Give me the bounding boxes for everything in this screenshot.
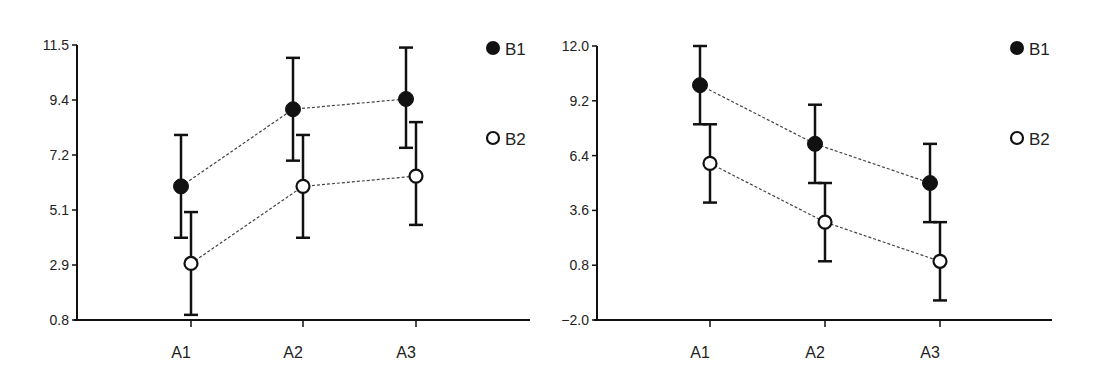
- legend-filled-circle-icon: [486, 41, 500, 55]
- y-tick-label: 12.0: [562, 38, 589, 54]
- filled-circle-marker: [286, 102, 301, 117]
- legend-open-circle-icon: [1011, 132, 1023, 144]
- open-circle-marker: [704, 157, 717, 170]
- x-tick-label: A3: [396, 344, 416, 361]
- open-circle-marker: [185, 257, 198, 270]
- y-tick-label: 6.4: [570, 148, 590, 164]
- y-tick-label: 7.2: [50, 147, 70, 163]
- left-chart: 11.59.47.25.12.90.8A1A2A3B1B2: [43, 37, 530, 361]
- filled-circle-marker: [808, 136, 823, 151]
- legend-b2-label: B2: [1029, 130, 1050, 149]
- y-tick-label: 2.9: [50, 257, 70, 273]
- x-tick-label: A3: [920, 344, 940, 361]
- legend-b2-label: B2: [505, 130, 526, 149]
- legend-open-circle-icon: [487, 132, 499, 144]
- right-chart: 12.09.26.43.60.8−2.0A1A2A3B1B2: [561, 38, 1052, 361]
- open-circle-marker: [934, 255, 947, 268]
- y-tick-label: 5.1: [50, 202, 70, 218]
- y-tick-label: 0.8: [50, 312, 70, 328]
- y-tick-label: 9.2: [570, 93, 590, 109]
- filled-circle-marker: [174, 179, 189, 194]
- y-tick-label: 3.6: [570, 202, 590, 218]
- legend-b1-label: B1: [1029, 40, 1050, 59]
- x-tick-label: A1: [171, 344, 191, 361]
- x-tick-label: A2: [805, 344, 825, 361]
- chart-canvas: 11.59.47.25.12.90.8A1A2A3B1B2 12.09.26.4…: [0, 0, 1096, 382]
- y-tick-label: 11.5: [43, 37, 69, 53]
- legend-b1-label: B1: [505, 40, 526, 59]
- open-circle-marker: [297, 180, 310, 193]
- filled-circle-marker: [693, 78, 708, 93]
- legend-filled-circle-icon: [1010, 41, 1024, 55]
- x-tick-label: A2: [283, 344, 303, 361]
- filled-circle-marker: [399, 91, 414, 106]
- filled-circle-marker: [923, 176, 938, 191]
- x-tick-label: A1: [690, 344, 710, 361]
- y-tick-label: −2.0: [561, 312, 589, 328]
- y-tick-label: 9.4: [50, 92, 70, 108]
- open-circle-marker: [819, 216, 832, 229]
- open-circle-marker: [410, 170, 423, 183]
- y-tick-label: 0.8: [570, 257, 590, 273]
